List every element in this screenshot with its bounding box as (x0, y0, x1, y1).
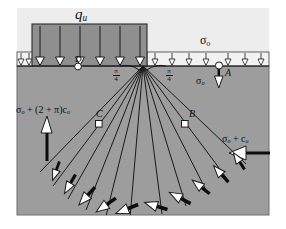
left-stress-label: σo + (2 + π)cu (16, 104, 70, 115)
stress-at-a-label: σo (196, 75, 204, 86)
point-marker-d (75, 63, 82, 70)
point-label-b: B (189, 108, 195, 119)
angle-label-right: π 4 (163, 68, 175, 83)
applied-load-label: qu (75, 6, 87, 23)
angle-label-left: π 4 (110, 68, 122, 83)
right-stress-label: σo + cu (222, 133, 249, 144)
figure-canvas: qu σo D A σo π 4 π 4 C B σo + (2 + π)cu … (0, 0, 286, 229)
point-label-c: C (96, 108, 103, 119)
point-marker-c (96, 121, 103, 128)
point-marker-a (215, 62, 222, 69)
footing-block (32, 24, 147, 66)
point-marker-b (182, 121, 189, 128)
point-label-a: A (225, 67, 231, 78)
surcharge-top-label: σo (200, 33, 210, 48)
point-label-d: D (75, 54, 82, 64)
